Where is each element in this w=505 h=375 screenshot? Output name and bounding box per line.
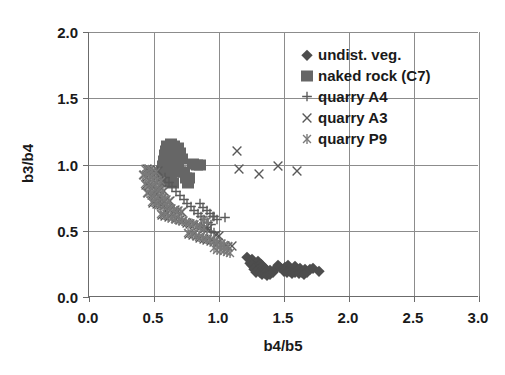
legend-item-plus[interactable]: quarry A4 <box>296 86 491 107</box>
legend-item-label: quarry P9 <box>318 130 387 147</box>
legend-item-square[interactable]: naked rock (C7) <box>296 65 491 86</box>
data-point <box>198 214 209 225</box>
data-point <box>215 238 226 249</box>
data-point <box>139 179 150 190</box>
data-point <box>225 248 236 259</box>
data-point <box>212 244 223 255</box>
data-point <box>150 167 161 178</box>
data-point <box>163 211 174 222</box>
data-point <box>166 212 177 223</box>
data-point <box>191 220 202 231</box>
y-axis-tick-label: 2.0 <box>34 24 78 41</box>
x-axis-tick <box>284 296 285 302</box>
data-point <box>160 194 171 205</box>
ex-marker-icon <box>296 107 318 128</box>
x-axis-tick-label: 0.0 <box>78 309 99 326</box>
data-point <box>147 196 158 207</box>
y-axis-tick <box>83 231 89 232</box>
data-point <box>152 175 163 186</box>
y-axis-tick-label: 1.0 <box>34 156 78 173</box>
legend-item-ex[interactable]: quarry A3 <box>296 107 491 128</box>
data-point <box>158 200 169 211</box>
data-point <box>170 213 181 224</box>
data-point <box>184 218 195 229</box>
data-point <box>148 173 159 184</box>
y-axis-tick-label: 0.0 <box>34 289 78 306</box>
data-point <box>219 240 230 251</box>
x-axis-tick <box>414 296 415 302</box>
data-point <box>147 181 158 192</box>
x-axis-tick-label: 3.0 <box>468 309 489 326</box>
x-axis-tick <box>89 296 90 302</box>
data-point <box>186 229 197 240</box>
data-point <box>202 216 213 227</box>
data-point <box>144 172 155 183</box>
legend-item-diamond[interactable]: undist. veg. <box>296 44 491 65</box>
y-axis-tick <box>83 165 89 166</box>
data-point <box>159 210 170 221</box>
legend-item-label: quarry A4 <box>318 88 387 105</box>
data-point <box>201 234 212 245</box>
data-point <box>161 202 172 213</box>
data-point <box>195 221 206 232</box>
legend-item-star[interactable]: quarry P9 <box>296 128 491 149</box>
scatter-plot-figure: 0.00.51.01.52.02.53.00.00.51.01.52.0 b4/… <box>0 0 505 375</box>
y-axis-tick <box>83 32 89 33</box>
x-axis-tick-label: 1.5 <box>273 309 294 326</box>
legend-item-label: undist. veg. <box>318 46 401 63</box>
data-point <box>215 245 226 256</box>
data-point <box>155 208 166 219</box>
y-axis-tick <box>83 98 89 99</box>
x-axis-tick-label: 0.5 <box>143 309 164 326</box>
x-axis-tick <box>154 296 155 302</box>
data-point <box>190 230 201 241</box>
data-point <box>149 190 160 201</box>
y-axis-tick-label: 1.5 <box>34 90 78 107</box>
diamond-marker-icon <box>296 44 318 65</box>
data-point <box>188 219 199 230</box>
data-point <box>222 241 233 252</box>
data-point <box>172 205 183 216</box>
data-point <box>154 199 165 210</box>
data-point <box>142 187 153 198</box>
data-point <box>152 191 163 202</box>
legend-item-label: quarry A3 <box>318 109 387 126</box>
x-axis-tick-label: 2.5 <box>403 309 424 326</box>
plus-marker-icon <box>296 86 318 107</box>
data-point <box>137 169 148 180</box>
data-point <box>143 180 154 191</box>
data-point <box>198 222 209 233</box>
data-point <box>173 214 184 225</box>
x-axis-label: b4/b5 <box>88 337 478 354</box>
star-marker-icon <box>296 128 318 149</box>
data-point <box>150 183 161 194</box>
data-point <box>212 237 223 248</box>
data-point <box>145 188 156 199</box>
data-point <box>180 217 191 228</box>
data-point <box>157 185 168 196</box>
x-axis-tick-label: 2.0 <box>338 309 359 326</box>
data-point <box>154 184 165 195</box>
y-axis-label: b3/b4 <box>19 128 36 198</box>
data-point <box>156 192 167 203</box>
data-point <box>219 246 230 257</box>
data-point <box>208 243 219 254</box>
legend-item-label: naked rock (C7) <box>318 67 431 84</box>
data-point <box>183 228 194 239</box>
x-axis-tick <box>349 296 350 302</box>
y-axis-tick <box>83 297 89 298</box>
x-axis-tick-label: 1.0 <box>208 309 229 326</box>
data-point <box>204 235 215 246</box>
data-point <box>141 171 152 182</box>
data-point <box>177 216 188 227</box>
data-point <box>155 176 166 187</box>
data-point <box>140 164 151 175</box>
data-point <box>197 233 208 244</box>
data-point <box>221 247 232 258</box>
data-point <box>147 166 158 177</box>
data-point <box>165 203 176 214</box>
data-point <box>208 236 219 247</box>
legend: undist. veg.naked rock (C7)quarry A4quar… <box>296 44 491 149</box>
square-marker-icon <box>296 65 318 86</box>
data-point <box>163 195 174 206</box>
